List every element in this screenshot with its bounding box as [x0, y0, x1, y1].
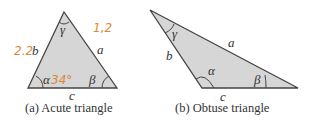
label-side-a: a: [97, 42, 104, 57]
handwritten-a-value: 1,2: [93, 21, 112, 35]
acute-triangle-figure: γ b a α β c 2.2 1,2 34° (a) Acute triang…: [14, 12, 117, 115]
handwritten-alpha-value: 34°: [51, 73, 72, 87]
caption-obtuse: (b) Obtuse triangle: [175, 101, 270, 115]
label-alpha: α: [43, 72, 51, 87]
caption-acute: (a) Acute triangle: [25, 101, 113, 115]
label-beta: β: [88, 72, 96, 87]
label-alpha-b: α: [208, 63, 216, 78]
handwritten-b-value: 2.2: [14, 44, 33, 58]
triangle-figures: γ b a α β c 2.2 1,2 34° (a) Acute triang…: [0, 0, 316, 125]
label-gamma: γ: [60, 22, 66, 37]
label-beta-b: β: [253, 72, 261, 87]
label-side-a-b: a: [228, 35, 235, 50]
label-gamma-b: γ: [172, 26, 178, 41]
obtuse-triangle-figure: γ b a α β c (b) Obtuse triangle: [150, 10, 298, 115]
label-side-b-b: b: [166, 48, 173, 63]
